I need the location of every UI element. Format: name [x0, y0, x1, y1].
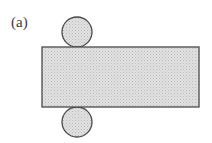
cylinder-net-figure: (a) [0, 0, 212, 143]
cylinder-net-diagram [0, 0, 212, 143]
bottom-circle [62, 107, 92, 137]
top-circle [62, 17, 92, 47]
lateral-rectangle [42, 47, 199, 107]
